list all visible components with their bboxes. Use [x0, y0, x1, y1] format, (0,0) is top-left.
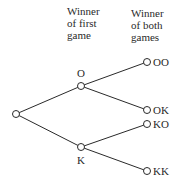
label-KK: KK — [153, 165, 169, 177]
edge-K-KO — [81, 124, 147, 147]
edge-K-KK — [81, 147, 147, 171]
edge-root-O — [16, 86, 81, 114]
node-OO — [144, 59, 151, 66]
tree-diagram: O K OO OK KO KK — [0, 0, 178, 189]
label-OO: OO — [153, 56, 169, 68]
node-O — [78, 83, 85, 90]
node-KK — [144, 168, 151, 175]
node-root — [13, 111, 20, 118]
label-K: K — [77, 154, 85, 166]
label-KO: KO — [153, 118, 169, 130]
label-OK: OK — [153, 104, 169, 116]
node-OK — [144, 107, 151, 114]
label-O: O — [77, 67, 85, 79]
edge-O-OO — [81, 62, 147, 86]
node-K — [78, 144, 85, 151]
edge-root-K — [16, 114, 81, 147]
node-KO — [144, 121, 151, 128]
edge-O-OK — [81, 86, 147, 110]
